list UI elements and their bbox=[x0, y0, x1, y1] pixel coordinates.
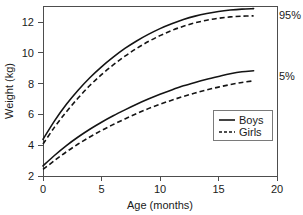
data-curves bbox=[43, 9, 254, 170]
y-axis-title: Weight (kg) bbox=[3, 63, 15, 119]
annotation-5-percentile: 5% bbox=[279, 70, 295, 82]
legend: Boys Girls bbox=[214, 111, 273, 141]
growth-chart-svg: 2 4 6 8 10 12 0 5 10 15 20 Age (months) … bbox=[0, 0, 303, 215]
legend-label-girls: Girls bbox=[239, 126, 262, 138]
x-tick-label-0: 0 bbox=[40, 183, 46, 195]
x-tick-label-20: 20 bbox=[271, 183, 283, 195]
y-tick-label-10: 10 bbox=[22, 47, 34, 59]
x-tick-label-5: 5 bbox=[98, 183, 104, 195]
chart-figure: 2 4 6 8 10 12 0 5 10 15 20 Age (months) … bbox=[0, 0, 303, 215]
y-tick-label-2: 2 bbox=[28, 170, 34, 182]
y-tick-label-12: 12 bbox=[22, 16, 34, 28]
x-axis-title: Age (months) bbox=[127, 199, 193, 211]
y-axis-tick-labels: 2 4 6 8 10 12 bbox=[22, 16, 34, 182]
y-tick-label-8: 8 bbox=[28, 78, 34, 90]
y-tick-label-6: 6 bbox=[28, 108, 34, 120]
x-axis-tick-labels: 0 5 10 15 20 bbox=[40, 183, 283, 195]
percentile-annotations: 95% 5% bbox=[279, 9, 301, 82]
y-axis-ticks bbox=[38, 22, 43, 176]
x-axis-ticks bbox=[43, 176, 277, 181]
x-tick-label-10: 10 bbox=[154, 183, 166, 195]
curve-boys-5 bbox=[43, 71, 254, 166]
x-tick-label-15: 15 bbox=[212, 183, 224, 195]
annotation-95-percentile: 95% bbox=[279, 9, 301, 21]
legend-label-boys: Boys bbox=[239, 114, 264, 126]
y-tick-label-4: 4 bbox=[28, 139, 34, 151]
